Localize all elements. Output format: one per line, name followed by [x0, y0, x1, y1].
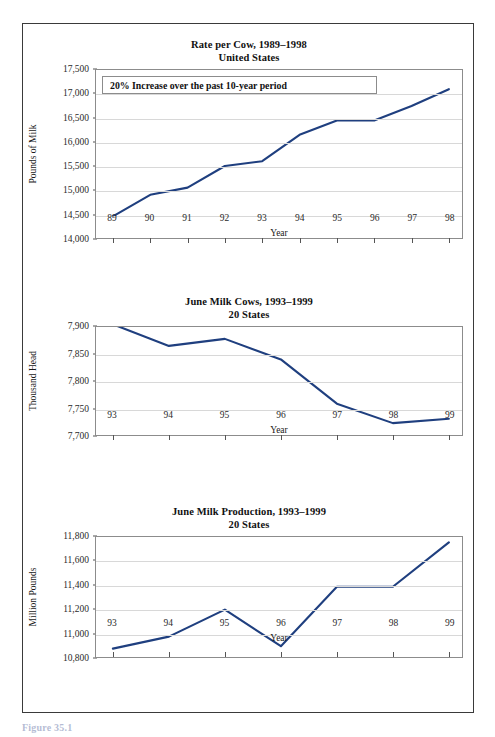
x-tick-label: 98 — [445, 213, 455, 223]
y-tick-label: 16,000 — [63, 137, 89, 147]
y-axis-title: Thousand Head — [25, 326, 41, 436]
chart-june-milk-production: June Milk Production, 1993–1999 20 State… — [23, 505, 475, 658]
x-tick-mark — [337, 238, 338, 243]
x-tick-mark — [393, 652, 394, 657]
x-tick-label: 91 — [182, 213, 192, 223]
x-tick-mark — [169, 652, 170, 657]
y-axis-ticks: 7,7007,7507,8007,8507,900 — [41, 326, 93, 436]
x-axis-ticks: 89909192939495969798 — [95, 213, 463, 227]
x-tick-label: 94 — [164, 410, 174, 420]
chart-june-milk-cows: June Milk Cows, 1993–1999 20 States Thou… — [23, 295, 475, 436]
y-tick-label: 14,000 — [63, 234, 89, 244]
chart-title: June Milk Production, 1993–1999 20 State… — [23, 505, 475, 531]
y-tick-label: 11,400 — [63, 580, 89, 590]
y-tick-label: 17,500 — [63, 64, 89, 74]
y-tick-label: 15,000 — [63, 185, 89, 195]
gridline — [96, 119, 462, 120]
x-axis-ticks: 93949596979899 — [95, 618, 463, 632]
y-axis-ticks: 14,00014,50015,00015,50016,00016,50017,0… — [41, 69, 93, 239]
x-tick-label: 95 — [332, 213, 342, 223]
chart-rate-per-cow: Rate per Cow, 1989–1998 United States Po… — [23, 38, 475, 239]
gridline — [96, 143, 462, 144]
x-axis-title: Year — [95, 228, 463, 238]
gridline — [96, 355, 462, 356]
x-tick-mark — [113, 238, 114, 243]
x-tick-mark — [281, 435, 282, 440]
y-tick-label: 7,800 — [68, 376, 89, 386]
y-tick-label: 11,600 — [63, 555, 89, 565]
y-axis-title: Pounds of Milk — [25, 69, 41, 239]
chart-title-line2: United States — [23, 51, 475, 64]
x-tick-label: 99 — [445, 410, 455, 420]
x-tick-mark — [393, 435, 394, 440]
chart-title-line1: June Milk Production, 1993–1999 — [172, 506, 326, 517]
x-tick-mark — [150, 238, 151, 243]
x-tick-label: 96 — [276, 618, 286, 628]
y-tick-label: 16,500 — [63, 113, 89, 123]
x-tick-mark — [449, 652, 450, 657]
figure-frame: Rate per Cow, 1989–1998 United States Po… — [22, 23, 474, 713]
x-tick-mark — [262, 238, 263, 243]
x-tick-label: 97 — [332, 410, 342, 420]
y-tick-label: 11,000 — [63, 629, 89, 639]
x-tick-mark — [337, 652, 338, 657]
x-tick-mark — [449, 238, 450, 243]
x-axis-title: Year — [95, 425, 463, 435]
x-tick-mark — [374, 238, 375, 243]
chart-title-line2: 20 States — [23, 308, 475, 321]
x-tick-label: 98 — [389, 410, 399, 420]
figure-caption: Figure 35.1 — [22, 722, 72, 733]
y-axis-title: Million Pounds — [25, 536, 41, 658]
x-tick-mark — [225, 435, 226, 440]
gridline — [96, 610, 462, 611]
chart-title: Rate per Cow, 1989–1998 United States — [23, 38, 475, 64]
y-tick-label: 17,000 — [63, 88, 89, 98]
x-axis-title: Year — [95, 633, 463, 643]
y-tick-label: 11,800 — [63, 531, 89, 541]
x-tick-label: 98 — [389, 618, 399, 628]
x-tick-label: 92 — [220, 213, 230, 223]
x-tick-label: 96 — [276, 410, 286, 420]
x-tick-label: 89 — [107, 213, 117, 223]
x-tick-mark — [225, 238, 226, 243]
y-tick-label: 11,200 — [63, 604, 89, 614]
x-tick-label: 93 — [107, 618, 117, 628]
x-tick-mark — [412, 238, 413, 243]
chart-title: June Milk Cows, 1993–1999 20 States — [23, 295, 475, 321]
y-tick-label: 10,800 — [63, 653, 89, 663]
x-tick-mark — [281, 652, 282, 657]
x-tick-mark — [169, 435, 170, 440]
x-tick-mark — [113, 435, 114, 440]
chart-title-line1: June Milk Cows, 1993–1999 — [185, 296, 313, 307]
gridline — [96, 561, 462, 562]
y-tick-label: 15,500 — [63, 161, 89, 171]
x-axis-ticks: 93949596979899 — [95, 410, 463, 424]
x-tick-label: 93 — [107, 410, 117, 420]
x-tick-mark — [300, 238, 301, 243]
chart-title-line2: 20 States — [23, 518, 475, 531]
x-tick-label: 96 — [370, 213, 380, 223]
x-tick-mark — [113, 652, 114, 657]
gridline — [96, 167, 462, 168]
x-tick-label: 99 — [445, 618, 455, 628]
x-tick-label: 93 — [257, 213, 267, 223]
x-tick-mark — [188, 238, 189, 243]
y-tick-label: 7,850 — [68, 349, 89, 359]
y-tick-label: 7,700 — [68, 431, 89, 441]
x-tick-mark — [449, 435, 450, 440]
y-tick-label: 14,500 — [63, 210, 89, 220]
x-tick-label: 94 — [164, 618, 174, 628]
x-tick-label: 90 — [145, 213, 155, 223]
x-tick-label: 97 — [408, 213, 418, 223]
y-tick-label: 7,900 — [68, 321, 89, 331]
x-tick-label: 95 — [220, 410, 230, 420]
x-tick-label: 94 — [295, 213, 305, 223]
x-tick-mark — [225, 652, 226, 657]
gridline — [96, 191, 462, 192]
gridline — [96, 382, 462, 383]
x-tick-label: 97 — [332, 618, 342, 628]
x-tick-mark — [337, 435, 338, 440]
y-axis-ticks: 10,80011,00011,20011,40011,60011,800 — [41, 536, 93, 658]
gridline — [96, 94, 462, 95]
x-tick-label: 95 — [220, 618, 230, 628]
